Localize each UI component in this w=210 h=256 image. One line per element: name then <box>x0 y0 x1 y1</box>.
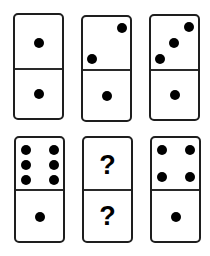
pip-icon <box>169 38 179 48</box>
domino-divider <box>152 189 199 191</box>
domino-divider <box>16 189 63 191</box>
pip-icon <box>49 160 59 170</box>
question-mark-top: ? <box>84 152 131 179</box>
domino-3 <box>149 14 200 121</box>
pip-icon <box>21 175 31 185</box>
domino-4 <box>14 136 65 243</box>
pip-icon <box>155 54 165 64</box>
pip-icon <box>184 22 194 32</box>
pip-icon <box>34 38 44 48</box>
pip-icon <box>49 175 59 185</box>
pip-icon <box>185 145 195 155</box>
question-mark-bottom: ? <box>84 203 131 230</box>
domino-6 <box>150 136 201 243</box>
pip-icon <box>21 160 31 170</box>
pip-icon <box>102 91 112 101</box>
pip-icon <box>35 212 45 222</box>
pip-icon <box>49 145 59 155</box>
pip-icon <box>34 89 44 99</box>
pip-icon <box>171 212 181 222</box>
domino-divider <box>83 69 130 71</box>
pip-icon <box>87 54 97 64</box>
domino-5: ?? <box>82 136 133 243</box>
domino-1 <box>13 13 64 120</box>
domino-divider <box>151 69 198 71</box>
pip-icon <box>117 23 127 33</box>
pip-icon <box>170 90 180 100</box>
pip-icon <box>157 172 167 182</box>
domino-divider <box>84 189 131 191</box>
pip-icon <box>21 145 31 155</box>
pip-icon <box>157 145 167 155</box>
domino-2 <box>81 15 132 122</box>
pip-icon <box>185 172 195 182</box>
domino-divider <box>15 68 62 70</box>
